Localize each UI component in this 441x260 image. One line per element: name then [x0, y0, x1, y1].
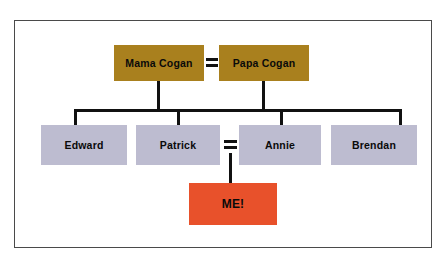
- node-label-papa-cogan: Papa Cogan: [233, 58, 296, 69]
- node-brendan[interactable]: Brendan: [331, 125, 417, 165]
- node-label-annie: Annie: [265, 140, 295, 151]
- diagram-frame: Mama Cogan Papa Cogan Edward Patr: [14, 20, 432, 248]
- node-mama-cogan[interactable]: Mama Cogan: [114, 45, 204, 81]
- node-label-patrick: Patrick: [160, 140, 196, 151]
- connector-stub-edward: [74, 109, 77, 125]
- connector-me-drop: [229, 153, 232, 183]
- connector-mama-drop: [157, 81, 160, 109]
- equals-bar-top: [206, 58, 218, 61]
- node-label-mama-cogan: Mama Cogan: [125, 58, 192, 69]
- marriage-equals-patrick-annie: [224, 137, 237, 151]
- node-papa-cogan[interactable]: Papa Cogan: [219, 45, 309, 81]
- equals-bar-bottom: [206, 64, 218, 67]
- node-label-edward: Edward: [64, 140, 103, 151]
- node-me[interactable]: ME!: [189, 183, 277, 225]
- marriage-equals-parents: [206, 55, 218, 69]
- node-edward[interactable]: Edward: [41, 125, 127, 165]
- connector-sibling-bus: [74, 109, 402, 112]
- equals-bar-bottom: [224, 146, 237, 149]
- node-label-me: ME!: [222, 198, 245, 210]
- node-label-brendan: Brendan: [352, 140, 396, 151]
- node-patrick[interactable]: Patrick: [136, 125, 220, 165]
- connector-stub-patrick: [177, 109, 180, 125]
- connector-papa-drop: [262, 81, 265, 109]
- equals-bar-top: [224, 140, 237, 143]
- node-annie[interactable]: Annie: [239, 125, 321, 165]
- connector-stub-annie: [280, 109, 283, 125]
- connector-stub-brendan: [399, 109, 402, 125]
- family-tree-diagram: Mama Cogan Papa Cogan Edward Patr: [0, 0, 441, 260]
